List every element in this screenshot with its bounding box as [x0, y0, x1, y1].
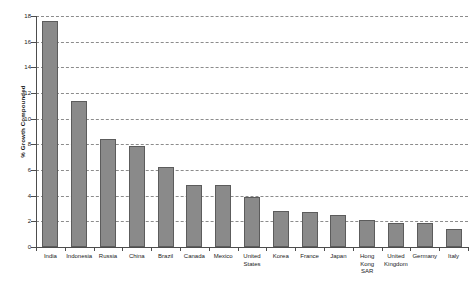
y-axis-tick-label: 0 [5, 244, 31, 250]
bar-slot [122, 16, 151, 247]
x-axis-tick-label: Korea [266, 253, 295, 276]
x-axis-tick-label: Mexico [209, 253, 238, 276]
bar-slot [65, 16, 94, 247]
bar[interactable] [244, 197, 260, 247]
x-axis-ticks [36, 247, 468, 251]
y-axis-tick-label: 6 [5, 167, 31, 173]
x-axis-tick [382, 247, 383, 251]
bar[interactable] [42, 21, 58, 247]
bar[interactable] [302, 212, 318, 247]
x-axis-tick-label: Russia [94, 253, 123, 276]
x-axis-tick [122, 247, 123, 251]
x-axis-tick [353, 247, 354, 251]
bar[interactable] [417, 223, 433, 247]
bar-chart: % Growth Compounded 181614121086420 Indi… [0, 0, 469, 296]
bar-slot [324, 16, 353, 247]
bar[interactable] [215, 185, 231, 247]
bar-slot [209, 16, 238, 247]
y-axis-tick-label: 18 [5, 13, 31, 19]
x-axis-tick [151, 247, 152, 251]
bar[interactable] [446, 229, 462, 247]
bar-slot [266, 16, 295, 247]
x-axis-tick-label: France [295, 253, 324, 276]
x-axis-tick [180, 247, 181, 251]
x-axis-tick [94, 247, 95, 251]
x-axis-tick [439, 247, 440, 251]
x-axis-tick-label: India [36, 253, 65, 276]
bar-slot [238, 16, 267, 247]
bar[interactable] [330, 215, 346, 247]
x-axis-tick [209, 247, 210, 251]
bar-slot [439, 16, 468, 247]
x-axis-tick-label: Japan [324, 253, 353, 276]
x-axis-tick-label: Brazil [151, 253, 180, 276]
x-axis-tick [410, 247, 411, 251]
x-axis-tick-label: Canada [180, 253, 209, 276]
x-axis-tick-label: China [122, 253, 151, 276]
x-axis-tick [65, 247, 66, 251]
x-axis-tick [324, 247, 325, 251]
bars-layer [36, 16, 468, 247]
x-axis-tick-label: Indonesia [65, 253, 94, 276]
y-axis-tick-label: 8 [5, 141, 31, 147]
x-axis-tick-label: United Kingdom [382, 253, 411, 276]
x-axis-labels: IndiaIndonesiaRussiaChinaBrazilCanadaMex… [36, 253, 468, 276]
y-axis-tick-label: 2 [5, 218, 31, 224]
y-axis-tick-label: 16 [5, 38, 31, 44]
x-axis-tick-label: United States [238, 253, 267, 276]
bar-slot [94, 16, 123, 247]
y-axis-tick-label: 12 [5, 90, 31, 96]
bar[interactable] [129, 146, 145, 247]
y-axis-tick-label: 4 [5, 192, 31, 198]
bar[interactable] [359, 220, 375, 247]
bar[interactable] [100, 139, 116, 247]
x-axis-tick [266, 247, 267, 251]
x-axis-tick [36, 247, 37, 251]
bar-slot [151, 16, 180, 247]
bar[interactable] [158, 167, 174, 247]
bar[interactable] [186, 185, 202, 247]
bar-slot [382, 16, 411, 247]
bar-slot [353, 16, 382, 247]
bar-slot [410, 16, 439, 247]
bar[interactable] [71, 101, 87, 247]
bar-slot [36, 16, 65, 247]
bar[interactable] [273, 211, 289, 247]
y-axis-tick-label: 10 [5, 115, 31, 121]
y-axis-tick-label: 14 [5, 64, 31, 70]
x-axis-tick [295, 247, 296, 251]
x-axis-tick [238, 247, 239, 251]
bar-slot [180, 16, 209, 247]
x-axis-tick-label: Hong Kong SAR [353, 253, 382, 276]
x-axis-tick-label: Germany [410, 253, 439, 276]
bar-slot [295, 16, 324, 247]
bar[interactable] [388, 223, 404, 247]
x-axis-tick-label: Italy [439, 253, 468, 276]
